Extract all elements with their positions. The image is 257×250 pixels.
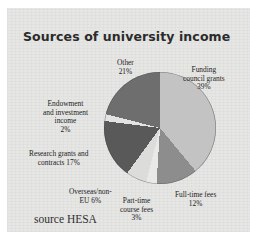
- pie-label-other: Other 21%: [117, 59, 134, 76]
- pie-label-overseas-non-eu: Overseas/non- EU 6%: [69, 188, 112, 205]
- pie-label-research-grants-and-contracts: Research grants and contracts 17%: [29, 150, 89, 167]
- chart-source-note: source HESA: [34, 213, 97, 225]
- pie-label-full-time-fees: Full-time fees 12%: [175, 191, 216, 208]
- chart-figure-panel: Sources of university income Funding cou…: [7, 8, 250, 232]
- pie-label-endowment-and-investment-income: Endowment and investment income 2%: [43, 100, 88, 134]
- pie-label-part-time-course-fees: Part-time course fees 3%: [120, 197, 153, 223]
- pie-label-funding-council-grants: Funding council grants 39%: [183, 66, 225, 92]
- chart-title: Sources of university income: [23, 29, 230, 44]
